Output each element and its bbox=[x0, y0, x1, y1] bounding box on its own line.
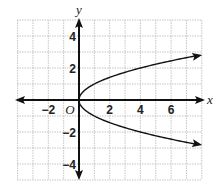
x-tick-label: −2 bbox=[41, 103, 55, 117]
x-tick-label: 6 bbox=[168, 103, 175, 117]
y-axis-label: y bbox=[74, 2, 82, 17]
y-tick-label: −2 bbox=[62, 126, 76, 140]
x-tick-label: 4 bbox=[137, 103, 144, 117]
y-tick-label: −4 bbox=[62, 158, 76, 172]
tick-labels: −224642−2−4Oxy bbox=[41, 2, 213, 172]
curve-upper-branch bbox=[79, 56, 196, 100]
y-tick-label: 2 bbox=[69, 62, 76, 76]
x-axis-label: x bbox=[206, 92, 213, 107]
origin-label: O bbox=[65, 102, 75, 117]
x-tick-label: 2 bbox=[106, 103, 113, 117]
y-tick-label: 4 bbox=[69, 30, 76, 44]
parabola-chart: −224642−2−4Oxy bbox=[0, 0, 222, 188]
